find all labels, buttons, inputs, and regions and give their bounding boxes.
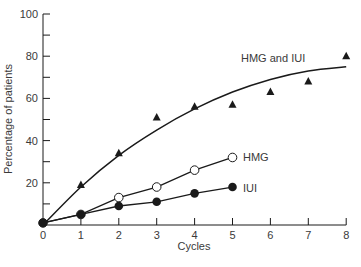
chart-svg: 20406080100012345678 Percentage of patie… [0, 0, 361, 267]
filled-circle-marker [77, 210, 86, 219]
plot-area [39, 52, 351, 227]
y-tick-label: 100 [20, 8, 38, 20]
y-axis-label: Percentage of patients [2, 63, 14, 174]
triangle-marker [342, 52, 350, 60]
open-circle-marker [115, 193, 124, 202]
filled-circle-marker [228, 183, 237, 192]
open-circle-marker [152, 183, 161, 192]
triangle-marker [153, 113, 161, 121]
axes: 20406080100012345678 [20, 8, 350, 241]
fit-curve-hmg-and-iui [43, 67, 346, 225]
open-circle-marker [190, 166, 199, 175]
filled-circle-marker [39, 219, 48, 228]
filled-circle-marker [190, 189, 199, 198]
y-tick-label: 60 [26, 92, 38, 104]
triangle-marker [266, 88, 274, 96]
y-tick-label: 20 [26, 177, 38, 189]
x-tick-label: 1 [78, 229, 84, 241]
series-label-hmg: HMG [243, 151, 269, 163]
x-tick-label: 6 [267, 229, 273, 241]
series-label-hmg-and-iui: HMG and IUI [241, 52, 305, 64]
y-tick-label: 40 [26, 135, 38, 147]
x-tick-label: 0 [40, 229, 46, 241]
y-tick-label: 80 [26, 50, 38, 62]
triangle-marker [191, 102, 199, 110]
x-tick-label: 5 [229, 229, 235, 241]
x-tick-label: 2 [116, 229, 122, 241]
x-axis-label: Cycles [177, 240, 211, 252]
line-hmg [43, 157, 233, 222]
x-tick-label: 7 [305, 229, 311, 241]
series-label-iui: IUI [243, 182, 257, 194]
chart: 20406080100012345678 Percentage of patie… [0, 0, 361, 267]
x-tick-label: 8 [343, 229, 349, 241]
x-tick-label: 3 [154, 229, 160, 241]
filled-circle-marker [115, 202, 124, 211]
filled-circle-marker [152, 197, 161, 206]
open-circle-marker [228, 153, 237, 162]
triangle-marker [304, 77, 312, 85]
triangle-marker [229, 100, 237, 108]
